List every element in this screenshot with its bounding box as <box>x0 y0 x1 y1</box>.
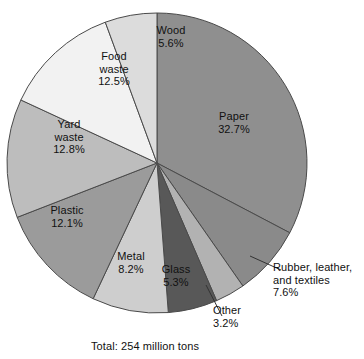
total-caption: Total: 254 million tons <box>0 340 290 352</box>
slice-label-metal: Metal 8.2% <box>107 250 155 275</box>
pie-chart-svg <box>0 0 364 359</box>
slice-label-plastic: Plastic 12.1% <box>38 204 96 229</box>
slice-label-food-waste: Food waste 12.5% <box>86 50 142 88</box>
pie-chart-figure: Wood 5.6% Food waste 12.5% Yard waste 12… <box>0 0 364 359</box>
slice-label-wood: Wood 5.6% <box>143 24 199 49</box>
slice-label-yard-waste: Yard waste 12.8% <box>40 118 98 156</box>
slice-label-paper: Paper 32.7% <box>204 110 264 135</box>
slice-label-other: Other 3.2% <box>213 304 267 329</box>
slice-label-glass: Glass 5.3% <box>152 263 200 288</box>
slice-label-rubber-leather-textiles: Rubber, leather, and textiles 7.6% <box>273 261 364 299</box>
